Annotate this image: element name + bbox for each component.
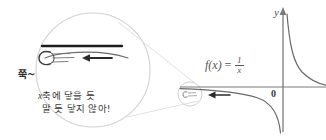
origin-label: 0	[271, 88, 276, 99]
note-line-1: x축에 닿을 듯	[38, 88, 95, 102]
note-line-1-text: 축에 닿을 듯	[42, 90, 94, 101]
illustration-svg	[0, 0, 326, 140]
figure-canvas: f(x) = 1 x y 0 쭉~ x축에 닿을 듯 말 듯 닿지 않아!	[0, 0, 326, 140]
y-axis-label: y	[274, 6, 279, 18]
formula-fraction: 1 x	[235, 56, 244, 76]
formula-fx: f(x)	[205, 58, 222, 73]
formula-denominator: x	[235, 66, 243, 75]
jjuk-annotation: 쭉~	[18, 66, 35, 81]
hyperbola-branch-quadrant-1	[287, 14, 326, 85]
magnifier-connector-lines	[118, 22, 198, 117]
formula-equals: =	[224, 58, 232, 73]
leftward-arrow-on-graph	[208, 92, 230, 99]
graph-y-axis	[280, 7, 287, 132]
note-line-2: 말 듯 닿지 않아!	[42, 101, 111, 115]
formula-numerator: 1	[235, 56, 244, 65]
leftward-direction-arrow	[82, 54, 112, 62]
comet-ball-with-motion-lines	[39, 51, 74, 64]
small-comet-icon	[183, 92, 197, 98]
function-formula: f(x) = 1 x	[205, 56, 244, 76]
